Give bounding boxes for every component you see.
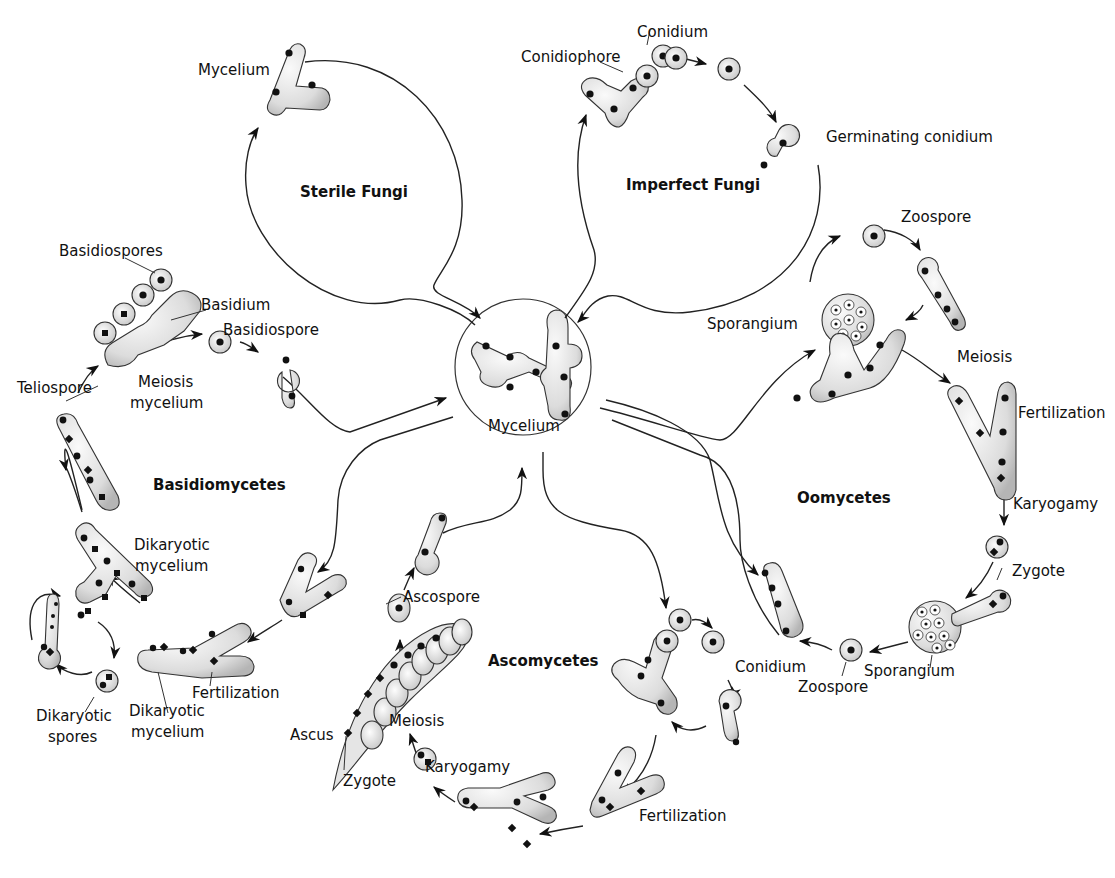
dikaryotic-spore — [96, 670, 118, 692]
germinating-ascospore — [415, 513, 446, 575]
sterile-mycelium-label: Mycelium — [198, 61, 270, 79]
dikaryotic-mycelium-bottom-label-1: Dikaryotic — [129, 702, 205, 720]
meiosis-label: Meiosis — [138, 373, 193, 391]
dikaryotic-spores-label-2: spores — [48, 728, 98, 746]
oo-karyogamy-label: Karyogamy — [1013, 495, 1098, 513]
asco-ascospore-label: Ascospore — [403, 588, 480, 606]
sterile-fungi-cycle: Mycelium Sterile Fungi — [198, 44, 480, 325]
oo-fertilization-label: Fertilization — [1018, 404, 1105, 422]
dikaryotic-mycelium-bottom-label-2: mycelium — [131, 723, 204, 741]
dikaryotic-mycelium-top-label-1: Dikaryotic — [134, 536, 210, 554]
sterile-mycelium-cells — [267, 44, 330, 115]
oo-zygote-label: Zygote — [1012, 562, 1065, 580]
basidio-fertilization-label: Fertilization — [192, 684, 279, 702]
oo-sporangium-bottom-label: Sporangium — [864, 662, 955, 680]
basidium-label: Basidium — [201, 296, 270, 314]
basidio-fertilization-hyphae — [280, 553, 346, 617]
imperfect-fungi-title: Imperfect Fungi — [626, 176, 760, 194]
center-mycelium: Mycelium — [455, 299, 591, 435]
basidium — [105, 291, 201, 367]
oo-zoospore-bottom-label: Zoospore — [798, 678, 868, 696]
center-mycelium-label: Mycelium — [488, 417, 560, 435]
diagram-canvas: Mycelium Mycelium Sterile Fungi Conidium… — [0, 0, 1115, 878]
basidiospore-label: Basidiospore — [223, 321, 319, 339]
meiosis-mycelium-label: mycelium — [130, 394, 203, 412]
fungal-life-cycles-diagram: Mycelium Mycelium Sterile Fungi Conidium… — [0, 0, 1115, 878]
oomycetes-title: Oomycetes — [797, 489, 891, 507]
asco-fertilization-label: Fertilization — [639, 807, 726, 825]
dikaryotic-mycelium-top-label-2: mycelium — [135, 557, 208, 575]
oo-meiosis-label: Meiosis — [957, 348, 1012, 366]
conidiophore-label: Conidiophore — [521, 48, 620, 66]
dikaryotic-spores-label-1: Dikaryotic — [36, 707, 112, 725]
oo-conidium-label: Conidium — [735, 658, 806, 676]
teliospore-hypha — [57, 414, 119, 511]
germinating-basidiospore — [277, 370, 299, 408]
oomycete-zygote — [986, 536, 1008, 558]
asco-ascus-label: Ascus — [290, 726, 334, 744]
basidiospores-label: Basidiospores — [59, 242, 163, 260]
asco-zygote-label: Zygote — [343, 772, 396, 790]
asco-germinating-conidium — [719, 690, 741, 741]
ascomycetes-title: Ascomycetes — [488, 652, 599, 670]
teliospore-label: Teliospore — [16, 379, 92, 397]
asco-karyogamy-label: Karyogamy — [425, 758, 510, 776]
conidiophore-cells — [581, 78, 648, 127]
oo-zoospore-top-label: Zoospore — [901, 208, 971, 226]
oo-sporangium-top-label: Sporangium — [707, 315, 798, 333]
conidium-label: Conidium — [637, 23, 708, 41]
oomycete-conidium-hypha — [764, 563, 803, 638]
asco-meiosis-label: Meiosis — [389, 712, 444, 730]
basidiomycetes-title: Basidiomycetes — [153, 476, 286, 494]
sterile-fungi-title: Sterile Fungi — [300, 183, 408, 201]
ascomycetes-cycle: Ascospore Ascus Meiosis Zygote Karyogamy… — [290, 452, 741, 848]
germinating-conidium-label: Germinating conidium — [826, 128, 993, 146]
